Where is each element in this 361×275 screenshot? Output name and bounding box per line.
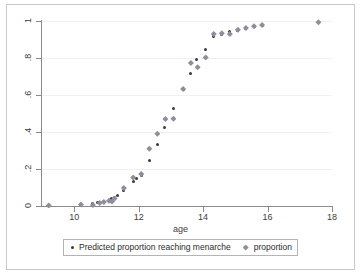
y-tick-label: .6: [24, 87, 33, 103]
y-tick: [36, 132, 41, 133]
gridline-y: [42, 95, 332, 96]
x-tick-label: 12: [127, 212, 151, 222]
y-tick: [36, 206, 41, 207]
data-point-predicted: [132, 180, 135, 183]
x-tick-label: 10: [62, 212, 86, 222]
legend-marker-circle-icon: [71, 246, 74, 249]
gridline-y: [42, 58, 332, 59]
y-axis-line: [41, 20, 42, 207]
y-tick-label: 1: [24, 13, 33, 29]
legend-label-proportion: proportion: [254, 243, 292, 252]
x-tick-label: 16: [256, 212, 280, 222]
y-tick: [36, 58, 41, 59]
y-tick-label: 0: [24, 198, 33, 214]
legend-entry-proportion[interactable]: proportion: [243, 243, 292, 252]
y-tick: [36, 95, 41, 96]
gridline-y: [42, 132, 332, 133]
legend-label-predicted: Predicted proportion reaching menarche: [79, 243, 231, 252]
x-tick-label: 14: [191, 212, 215, 222]
data-point-predicted: [148, 159, 151, 162]
y-tick-label: .8: [24, 50, 33, 66]
y-tick-label: .4: [24, 124, 33, 140]
data-point-predicted: [116, 194, 119, 197]
legend-marker-diamond-icon: [243, 245, 249, 251]
data-point-predicted: [195, 58, 198, 61]
x-tick-label: 18: [320, 212, 344, 222]
gridline-y: [42, 21, 332, 22]
gridline-y: [42, 169, 332, 170]
x-axis-title: age: [0, 224, 361, 234]
x-axis-line: [41, 206, 333, 207]
y-tick-label: .2: [24, 161, 33, 177]
data-point-predicted: [163, 126, 166, 129]
y-tick: [36, 169, 41, 170]
data-point-predicted: [172, 107, 175, 110]
legend-entry-predicted[interactable]: Predicted proportion reaching menarche: [71, 243, 231, 252]
chart-figure: 0.2.4.6.81 1012141618 age Predicted prop…: [0, 0, 361, 275]
y-tick: [36, 21, 41, 22]
data-point-predicted: [204, 48, 207, 51]
chart-legend: Predicted proportion reaching menarche p…: [63, 239, 298, 256]
